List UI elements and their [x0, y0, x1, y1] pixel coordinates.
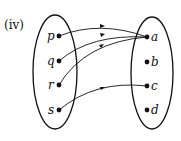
arrowhead-s-c	[100, 87, 105, 90]
domain-elements: p q r s	[47, 29, 61, 117]
dot-c	[145, 84, 150, 89]
dot-d	[145, 108, 150, 113]
dot-p	[57, 34, 62, 39]
mapping-diagram: (iv) p q r s a b c d	[0, 0, 181, 141]
label-q: q	[47, 54, 55, 68]
label-b: b	[151, 55, 159, 69]
mapping-arrows	[59, 28, 147, 110]
label-s: s	[48, 103, 54, 117]
label-p: p	[47, 29, 55, 43]
label-d: d	[151, 103, 159, 117]
arrowheads	[99, 24, 105, 90]
figure-label: (iv)	[4, 18, 24, 32]
dot-a	[145, 35, 150, 40]
dot-r	[57, 83, 62, 88]
label-a: a	[151, 30, 158, 44]
arrowhead-p-a	[100, 24, 105, 28]
arrowhead-q-a	[100, 33, 105, 37]
dot-s	[57, 108, 62, 113]
dot-b	[145, 60, 150, 65]
arrow-q-a	[59, 37, 147, 61]
codomain-elements: a b c d	[145, 30, 159, 117]
label-r: r	[48, 78, 55, 92]
label-c: c	[151, 79, 158, 93]
dot-q	[57, 59, 62, 64]
